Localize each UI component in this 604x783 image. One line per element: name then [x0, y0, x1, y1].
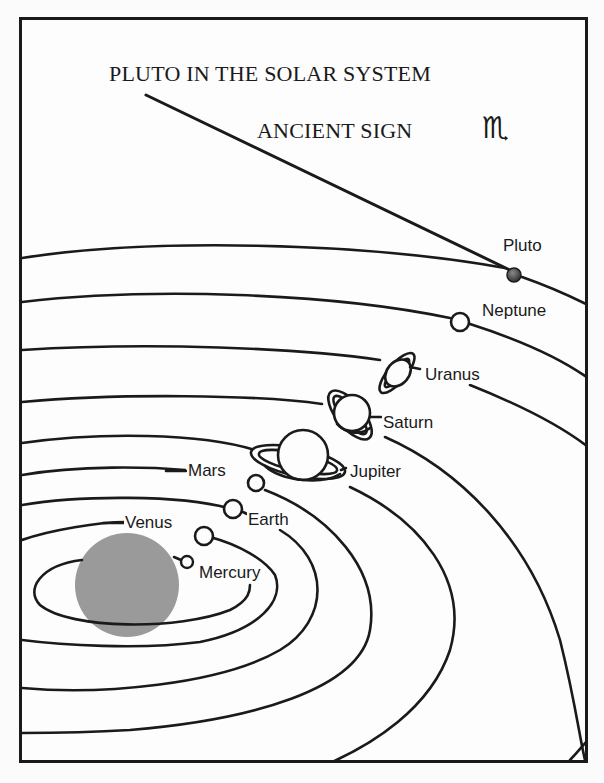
- label-mercury: Mercury: [198, 564, 261, 582]
- diagram-subtitle: ANCIENT SIGN: [257, 118, 412, 144]
- orbit-mars: [22, 468, 371, 733]
- planet-uranus: [374, 348, 420, 398]
- planet-pluto: [507, 268, 521, 282]
- planet-earth: [224, 500, 242, 518]
- label-jupiter: Jupiter: [349, 463, 402, 481]
- planet-mercury: [181, 556, 193, 568]
- planet-venus: [195, 527, 213, 545]
- label-uranus: Uranus: [424, 366, 481, 384]
- label-neptune: Neptune: [481, 302, 547, 320]
- planet-saturn: [321, 384, 381, 447]
- orbit-outer-corner: [570, 740, 588, 760]
- scorpio-sign-icon: ♏: [482, 110, 509, 145]
- label-earth: Earth: [247, 511, 290, 529]
- label-saturn: Saturn: [382, 414, 434, 432]
- planet-mars: [248, 475, 264, 491]
- planet-neptune: [451, 313, 469, 331]
- diagram-title: PLUTO IN THE SOLAR SYSTEM: [109, 61, 431, 87]
- label-mars: Mars: [187, 462, 227, 480]
- label-venus: Venus: [124, 514, 173, 532]
- label-pluto: Pluto: [502, 237, 543, 255]
